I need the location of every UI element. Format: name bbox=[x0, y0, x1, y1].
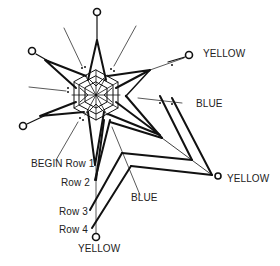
lead-in-lines bbox=[27, 16, 185, 124]
circle-bottom bbox=[93, 234, 100, 241]
label-row3: Row 3 bbox=[59, 207, 88, 217]
circle-upper-right bbox=[186, 52, 193, 59]
label-yellow-bottom: YELLOW bbox=[78, 244, 120, 254]
circle-top bbox=[94, 9, 101, 16]
label-begin-row1: BEGIN Row 1 bbox=[31, 159, 94, 169]
circle-upper-left bbox=[29, 48, 36, 55]
star-pattern-diagram bbox=[0, 0, 280, 266]
label-row4: Row 4 bbox=[59, 225, 88, 235]
label-blue-right: BLUE bbox=[196, 99, 223, 109]
label-blue-bottom: BLUE bbox=[131, 193, 158, 203]
winding-strands bbox=[90, 70, 212, 228]
guide-lines bbox=[29, 26, 184, 233]
circle-lower-right bbox=[215, 173, 221, 179]
label-row2: Row 2 bbox=[61, 178, 90, 188]
label-yellow-right: YELLOW bbox=[227, 174, 269, 184]
label-yellow-top-right: YELLOW bbox=[203, 49, 245, 59]
circle-left bbox=[20, 123, 27, 130]
